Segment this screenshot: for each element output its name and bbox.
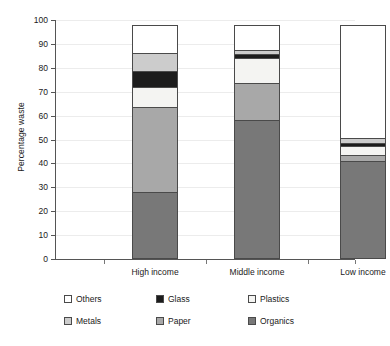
bar-segment-organics[interactable] [340, 161, 386, 259]
stacked-bar[interactable] [132, 25, 178, 259]
y-axis-tick-label: 90 [39, 39, 48, 49]
legend-label: Organics [260, 316, 294, 326]
y-axis-title: Percentage waste [16, 67, 26, 207]
y-axis-tick-label: 50 [39, 135, 48, 145]
bar-segment-plastics[interactable] [132, 87, 178, 109]
legend-item-others[interactable]: Others [64, 294, 156, 304]
stacked-bar[interactable] [234, 25, 280, 259]
x-axis-tick-mark [308, 260, 309, 264]
gridline [56, 68, 355, 69]
gridline [56, 20, 355, 21]
paper-swatch [156, 317, 164, 325]
bar-segment-organics[interactable] [132, 192, 178, 259]
bar-segment-others[interactable] [340, 25, 386, 139]
x-axis-tick-mark [206, 260, 207, 264]
y-axis-line [55, 20, 56, 260]
legend-label: Others [76, 294, 102, 304]
legend-item-glass[interactable]: Glass [156, 294, 248, 304]
legend-label: Plastics [260, 294, 289, 304]
others-swatch [64, 295, 72, 303]
gridline [56, 235, 355, 236]
stacked-bar[interactable] [340, 25, 386, 259]
gridline [56, 187, 355, 188]
metals-swatch [64, 317, 72, 325]
legend-item-paper[interactable]: Paper [156, 316, 248, 326]
bar-segment-glass[interactable] [132, 71, 178, 88]
legend-label: Glass [168, 294, 190, 304]
bar-segment-metals[interactable] [132, 53, 178, 72]
y-axis-tick-label: 40 [39, 158, 48, 168]
bar-segment-paper[interactable] [234, 83, 280, 121]
x-axis-category-label: Middle income [202, 267, 312, 277]
y-axis-tick-label: 0 [43, 254, 48, 264]
gridline [56, 92, 355, 93]
legend-label: Metals [76, 316, 101, 326]
legend-label: Paper [168, 316, 191, 326]
organics-swatch [248, 317, 256, 325]
x-axis-line [55, 259, 355, 260]
plastics-swatch [248, 295, 256, 303]
plot-area: 0102030405060708090100 High incomeMiddle… [55, 20, 355, 259]
gridline [56, 163, 355, 164]
y-axis-tick-label: 60 [39, 111, 48, 121]
bar-segment-others[interactable] [234, 25, 280, 51]
y-axis-tick-label: 70 [39, 87, 48, 97]
bar-segment-organics[interactable] [234, 120, 280, 259]
gridline [56, 44, 355, 45]
y-axis-tick-label: 80 [39, 63, 48, 73]
gridline [56, 140, 355, 141]
x-axis-tick-mark [355, 260, 356, 264]
y-axis-tick-label: 100 [34, 15, 48, 25]
gridline [56, 211, 355, 212]
y-axis-tick-label: 10 [39, 230, 48, 240]
legend-item-metals[interactable]: Metals [64, 316, 156, 326]
gridline [56, 116, 355, 117]
x-axis-tick-mark [104, 260, 105, 264]
chart-legend: OthersGlassPlasticsMetalsPaperOrganics [64, 294, 340, 326]
x-axis-category-label: High income [100, 267, 210, 277]
x-axis-category-label: Low income [308, 267, 390, 277]
y-axis-tick-label: 20 [39, 206, 48, 216]
bar-segment-paper[interactable] [132, 107, 178, 193]
glass-swatch [156, 295, 164, 303]
y-axis-tick-label: 30 [39, 182, 48, 192]
legend-item-plastics[interactable]: Plastics [248, 294, 340, 304]
legend-item-organics[interactable]: Organics [248, 316, 340, 326]
bar-segment-others[interactable] [132, 25, 178, 54]
bar-segment-plastics[interactable] [234, 58, 280, 84]
